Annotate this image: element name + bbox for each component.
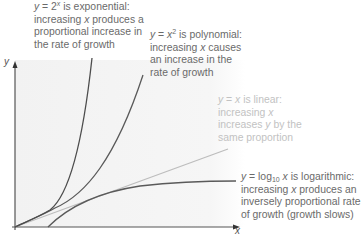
plot-background — [15, 60, 245, 227]
exponential-annotation: y = 2x is exponential: increasing x prod… — [34, 1, 144, 51]
x-axis-label: x — [235, 225, 240, 236]
polynomial-annotation: y = x2 is polynomial: increasing x cause… — [150, 29, 242, 79]
linear-annotation: y = x is linear: increasing x increases … — [218, 94, 302, 144]
y-axis-label: y — [4, 56, 9, 67]
logarithmic-annotation: y = log10 x is logarithmic: increasing x… — [241, 171, 361, 221]
